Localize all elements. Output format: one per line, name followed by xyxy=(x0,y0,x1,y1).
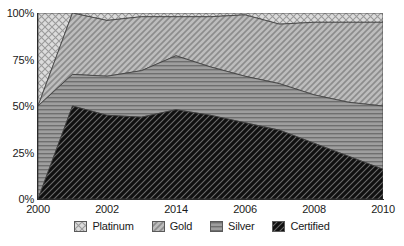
legend-swatch-platinum xyxy=(74,221,87,232)
legend-label: Platinum xyxy=(92,221,133,232)
y-tick-label: 50% xyxy=(13,101,34,112)
x-tick-label: 2014 xyxy=(152,204,200,215)
y-tick-label: 75% xyxy=(13,55,34,66)
legend-item-certified[interactable]: Certified xyxy=(272,221,329,232)
legend-swatch-gold xyxy=(152,221,165,232)
plot-svg xyxy=(38,13,383,199)
x-tick-label: 2002 xyxy=(83,204,131,215)
x-tick-label: 2000 xyxy=(14,204,62,215)
plot-area xyxy=(38,13,383,199)
x-tick-label: 2008 xyxy=(290,204,338,215)
x-tick-label: 2006 xyxy=(221,204,269,215)
chart-legend: Platinum Gold Silver Certified xyxy=(0,221,404,232)
legend-swatch-certified xyxy=(272,221,285,232)
y-tick-label: 25% xyxy=(13,148,34,159)
x-tick-label: 2010 xyxy=(359,204,404,215)
x-axis-line xyxy=(37,199,384,200)
legend-item-platinum[interactable]: Platinum xyxy=(74,221,133,232)
legend-label: Certified xyxy=(290,221,329,232)
stacked-area-chart: 0%25%50%75%100% 200020022014200620082010… xyxy=(0,0,404,246)
y-tick-label: 100% xyxy=(7,8,34,19)
y-axis-line xyxy=(37,13,38,200)
legend-item-silver[interactable]: Silver xyxy=(210,221,254,232)
legend-item-gold[interactable]: Gold xyxy=(152,221,192,232)
legend-label: Gold xyxy=(170,221,192,232)
legend-swatch-silver xyxy=(210,221,223,232)
legend-label: Silver xyxy=(228,221,254,232)
